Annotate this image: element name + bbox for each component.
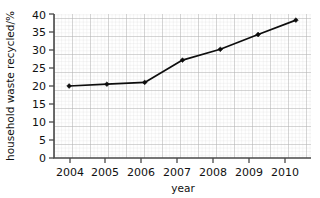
y-tick-label: 35 — [32, 26, 46, 39]
line-chart: 0 5 10 15 20 25 30 35 40 2004 2005 2006 … — [0, 0, 320, 198]
plot-grid — [54, 14, 311, 158]
y-tick-label: 20 — [32, 80, 46, 93]
y-tick-label: 40 — [32, 9, 46, 22]
y-tick-label: 10 — [32, 116, 46, 129]
y-axis-title: household waste recycled/% — [4, 11, 16, 161]
chart-canvas: 0 5 10 15 20 25 30 35 40 2004 2005 2006 … — [0, 0, 320, 198]
x-tick-label: 2009 — [235, 166, 263, 179]
x-tick-label: 2008 — [199, 166, 227, 179]
y-tick-label: 15 — [32, 98, 46, 111]
y-tick-label: 5 — [39, 134, 46, 147]
x-tick-label: 2004 — [56, 166, 84, 179]
x-tick-label: 2006 — [127, 166, 155, 179]
x-axis-tick-labels: 2004 2005 2006 2007 2008 2009 2010 — [56, 166, 299, 179]
x-tick-label: 2005 — [91, 166, 119, 179]
y-tick-label: 25 — [32, 62, 46, 75]
x-tick-label: 2010 — [271, 166, 299, 179]
x-axis-title: year — [171, 182, 195, 194]
x-tick-label: 2007 — [163, 166, 191, 179]
y-tick-label: 30 — [32, 44, 46, 57]
y-tick-label: 0 — [39, 152, 46, 165]
